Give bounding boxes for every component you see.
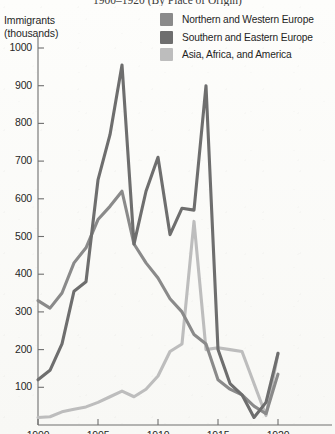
y-tick-label-400: 400 — [2, 267, 32, 279]
x-tick-label-1920: 1920 — [261, 429, 295, 434]
x-tick-label-1905: 1905 — [81, 429, 115, 434]
y-tick-label-200: 200 — [2, 343, 32, 355]
y-tick-label-500: 500 — [2, 230, 32, 242]
y-tick-label-800: 800 — [2, 116, 32, 128]
y-tick-label-700: 700 — [2, 154, 32, 166]
series-line-asia-africa-and-america — [38, 221, 278, 417]
y-tick-label-1000: 1000 — [2, 41, 32, 53]
y-tick-label-900: 900 — [2, 79, 32, 91]
axes — [38, 37, 332, 425]
y-tick-label-100: 100 — [2, 380, 32, 392]
chart-page: 1900–1920 (By Place of Origin) Immigrant… — [0, 0, 335, 434]
x-tick-label-1900: 1900 — [21, 429, 55, 434]
chart-svg — [0, 0, 335, 434]
data-series — [38, 65, 278, 418]
x-tick-label-1915: 1915 — [201, 429, 235, 434]
y-tick-label-300: 300 — [2, 305, 32, 317]
plot-area — [0, 0, 335, 434]
series-line-northern-and-western-europe — [38, 191, 278, 413]
y-tick-label-600: 600 — [2, 192, 32, 204]
x-tick-label-1910: 1910 — [141, 429, 175, 434]
series-line-southern-and-eastern-europe — [38, 65, 278, 418]
